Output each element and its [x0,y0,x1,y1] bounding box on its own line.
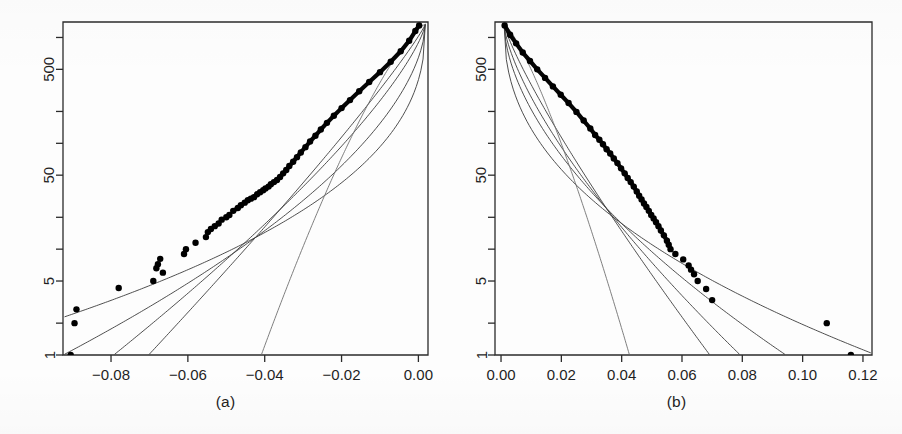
data-point [366,79,372,85]
x-tick-label: 0.06 [667,366,696,383]
x-tick-label: 0.12 [848,366,877,383]
x-tick-label: 0.02 [547,366,576,383]
data-point [573,109,579,115]
y-tick-label: 50 [473,167,490,184]
panel-b: 0.000.020.040.060.080.100.121550500 (b) [451,0,902,434]
data-point [312,133,318,139]
x-tick-label: 0.00 [404,366,433,383]
data-point [67,352,73,358]
x-tick-label: −0.06 [169,366,207,383]
data-point [587,125,593,131]
data-point [318,126,324,132]
data-point [703,286,709,292]
data-point [307,138,313,144]
data-point [183,246,189,252]
fitted-curve-fit-1 [65,24,425,316]
data-point [680,256,686,262]
data-point [580,117,586,123]
data-point [298,149,304,155]
data-point [614,160,620,166]
data-point [513,40,519,46]
data-point [416,22,422,28]
data-point [507,32,513,38]
data-point [592,132,598,138]
y-tick-label: 1 [473,351,490,359]
data-point [534,66,540,72]
data-point [672,251,678,257]
fitted-curve-fit-2 [65,24,425,354]
x-tick-label: −0.08 [92,366,130,383]
data-point [406,38,412,44]
data-point [709,297,715,303]
data-point [160,269,166,275]
data-point [116,285,122,291]
data-point [501,22,507,28]
data-point [324,120,330,126]
panel-a: −0.08−0.06−0.04−0.020.001550500 (a) [0,0,451,434]
panel-b-plot: 0.000.020.040.060.080.100.121550500 [451,0,902,434]
plot-area [65,22,425,358]
data-point [356,88,362,94]
panel-b-caption: (b) [451,393,902,411]
plot-frame [63,22,428,355]
y-tick-label: 500 [41,57,58,82]
data-point [527,58,533,64]
fitted-curve-fit-4 [504,24,709,354]
x-tick-label: 0.04 [607,366,636,383]
data-point [694,278,700,284]
x-tick-label: 0.08 [728,366,757,383]
data-point [667,246,673,252]
data-point [73,306,79,312]
data-point [558,91,564,97]
fitted-curve-fit-4 [149,24,425,354]
data-point [848,352,854,358]
y-tick-label: 5 [41,277,58,285]
data-point [520,49,526,55]
data-point [388,59,394,65]
data-point [192,240,198,246]
panel-a-caption: (a) [0,393,451,411]
data-point [661,232,667,238]
x-tick-label: −0.02 [323,366,361,383]
data-point [824,320,830,326]
plot-area [501,22,870,358]
x-tick-label: −0.04 [246,366,284,383]
data-point [550,83,556,89]
data-point [347,97,353,103]
figure-container: −0.08−0.06−0.04−0.020.001550500 (a) 0.00… [0,0,902,434]
data-point [338,105,344,111]
y-tick-label: 500 [473,57,490,82]
y-tick-label: 5 [473,277,490,285]
data-point [565,100,571,106]
data-point [302,144,308,150]
data-point [377,69,383,75]
y-tick-label: 50 [41,167,58,184]
data-point [412,28,418,34]
data-point [691,271,697,277]
data-point [542,75,548,81]
fitted-curve-fit-1 [504,24,870,352]
data-point [398,48,404,54]
y-tick-label: 1 [41,351,58,359]
data-point [71,320,77,326]
data-point [331,113,337,119]
x-tick-label: 0.00 [486,366,515,383]
plot-frame [495,22,872,355]
fitted-curve-fit-5 [504,24,629,354]
empirical-data-band [233,25,419,210]
data-point [157,256,163,262]
x-tick-label: 0.10 [788,366,817,383]
fitted-curve-fit-2 [504,24,784,354]
fitted-curve-fit-5 [262,24,426,354]
panel-a-plot: −0.08−0.06−0.04−0.020.001550500 [0,0,451,434]
data-point [150,278,156,284]
